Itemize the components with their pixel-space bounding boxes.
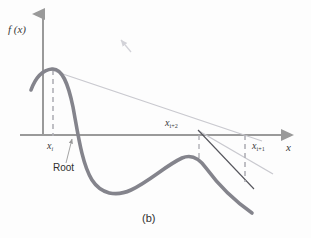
panel-caption: (b) [142, 213, 155, 224]
tick-label-x-i-plus-1: xi+1 [252, 141, 265, 151]
x-i-plus-1-subscript: i+1 [256, 145, 264, 152]
x-axis-label: x [286, 142, 291, 153]
y-axis-label: f (x) [8, 24, 26, 35]
figure-panel-b: f (x) x xi xi+2 xi+1 Root (b) [0, 0, 311, 238]
x-i-subscript: i [51, 145, 53, 152]
tick-label-x-i-plus-2: xi+2 [165, 118, 178, 128]
root-finding-diagram [0, 0, 311, 238]
secant-extension-line [199, 131, 273, 174]
pointer-arrow-icon [121, 40, 131, 52]
function-curve [31, 69, 252, 213]
root-annotation-label: Root [53, 163, 74, 173]
tick-label-x-i: xi [47, 141, 53, 151]
secant-line [51, 70, 262, 141]
root-leader-line [66, 139, 72, 163]
x-i-plus-2-subscript: i+2 [169, 122, 177, 129]
